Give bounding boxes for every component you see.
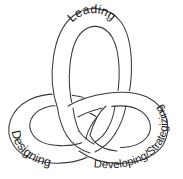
trefoil-knot-diagram: Leading Designing Developing/Strategizin… (0, 0, 183, 179)
knot-graphic: Leading Designing Developing/Strategizin… (0, 0, 183, 179)
